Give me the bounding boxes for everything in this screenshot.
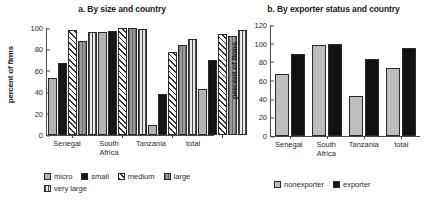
bar [88,32,97,135]
panel-a-legend: microsmallmediumlargevery large [44,172,224,196]
bar [58,63,67,135]
bar [291,54,305,136]
panel-b-legend: nonexporterexporter [274,180,424,192]
legend-label: micro [54,172,72,181]
x-axis-tick-label: South Africa [308,140,346,158]
legend-item[interactable]: large [164,172,191,181]
bar [98,32,107,135]
bar-group [97,28,147,135]
bar [108,31,117,135]
bar [178,45,187,135]
bar [208,60,217,135]
legend-swatch-icon [164,173,171,180]
panel-b-ytick: 40 [259,95,271,104]
bar-group [346,25,383,136]
panel-a-ytick: 40 [35,88,47,97]
chart-panel-b: b. By exporter status and country percen… [222,0,427,208]
legend-item[interactable]: very large [44,184,87,193]
bar-group [383,25,420,136]
legend-item[interactable]: small [81,172,109,181]
bar [138,29,147,135]
x-axis-tick-label: Senegal [46,139,88,157]
bar [365,59,379,136]
panel-b-ytick: 60 [259,76,271,85]
legend-swatch-icon [118,173,125,180]
panel-a-ytick: 20 [35,109,47,118]
bar [168,52,177,135]
bar [328,44,342,136]
panel-b-bar-groups [271,25,420,136]
legend-swatch-icon [44,173,51,180]
bar [275,74,289,136]
legend-item[interactable]: medium [118,172,155,181]
chart-panel-a: a. By size and country percent of firms … [0,0,222,208]
panel-a-y-axis-label: percent of firms [6,46,15,103]
bar [188,39,197,135]
legend-swatch-icon [274,181,281,188]
panel-b-ytick: 100 [254,39,271,48]
x-axis-tick-label: total [383,140,421,158]
panel-b-x-axis-labels: SenegalSouth AfricaTanzaniatotal [270,140,420,158]
x-axis-tick-label: total [172,139,214,157]
legend-swatch-icon [81,173,88,180]
x-axis-tick-label: South Africa [88,139,130,157]
bar [386,68,400,136]
x-axis-tick-label: Tanzania [130,139,172,157]
legend-label: very large [54,184,87,193]
legend-label: large [174,172,191,181]
panel-a-x-axis-labels: SenegalSouth AfricaTanzaniatotal [46,139,214,157]
legend-label: nonexporter [284,180,324,189]
bar [148,125,157,135]
panel-b-ytick: 20 [259,113,271,122]
bar-group [47,28,97,135]
bar [198,89,207,135]
panel-a-ytick: 100 [30,24,47,33]
bar [158,94,167,135]
panel-a-bar-groups [47,28,214,135]
panel-b-plot-area: 120 100 80 60 40 20 0 [270,25,420,137]
bar [402,48,416,136]
bar [312,45,326,136]
legend-label: exporter [343,180,371,189]
x-axis-tick-label: Tanzania [345,140,383,158]
bar [78,41,87,135]
panel-a-ytick: 80 [35,45,47,54]
bar-group [147,28,197,135]
panel-b-ytick: 120 [254,21,271,30]
legend-swatch-icon [333,181,340,188]
panel-b-ytick: 80 [259,57,271,66]
legend-label: medium [128,172,155,181]
legend-item[interactable]: micro [44,172,72,181]
bar-group [308,25,345,136]
legend-swatch-icon [44,185,51,192]
legend-label: small [91,172,109,181]
panel-a-title: a. By size and country [0,4,222,14]
bar [349,96,363,136]
figure-container: a. By size and country percent of firms … [0,0,427,208]
bar [128,28,137,135]
panel-a-ytick: 60 [35,66,47,75]
legend-item[interactable]: nonexporter [274,180,324,189]
bar [48,78,57,135]
panel-b-title: b. By exporter status and country [222,4,427,14]
panel-b-y-axis-label: percent of firms [230,42,239,99]
panel-a-plot-area: 100 80 60 40 20 0 [46,28,214,136]
bar [68,30,77,135]
bar [118,28,127,135]
x-axis-tick-label: Senegal [270,140,308,158]
legend-item[interactable]: exporter [333,180,371,189]
bar-group [271,25,308,136]
